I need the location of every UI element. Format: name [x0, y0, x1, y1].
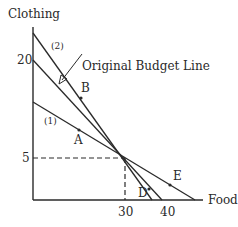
point-B-label: B — [81, 81, 90, 95]
original-budget-line — [33, 60, 162, 200]
line-1-label: (1) — [44, 116, 57, 126]
budget-line-diagram: Clothing Food 20 5 30 40 (2) (1) Origina… — [0, 0, 238, 227]
original-budget-line-label: Original Budget Line — [82, 59, 210, 73]
point-D-label: D — [138, 186, 148, 200]
annotation-pointer — [62, 54, 82, 80]
point-A-label: A — [73, 133, 83, 147]
tick-label-40: 40 — [160, 205, 175, 219]
point-D — [147, 187, 150, 190]
y-axis-label: Clothing — [8, 7, 60, 21]
point-E — [168, 183, 171, 186]
point-A — [77, 128, 80, 131]
tick-label-5: 5 — [22, 151, 30, 165]
point-E-label: E — [173, 169, 182, 183]
point-B — [79, 96, 82, 99]
x-axis-label: Food — [208, 193, 238, 207]
line-2-label: (2) — [51, 41, 64, 51]
tick-label-30: 30 — [118, 205, 133, 219]
tick-label-20: 20 — [17, 53, 32, 67]
